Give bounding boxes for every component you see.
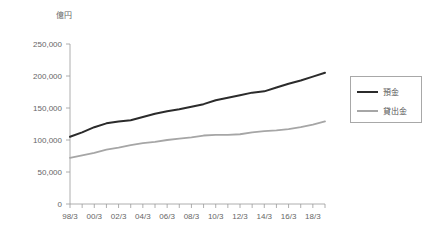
x-tick-label: 00/3 (86, 212, 102, 221)
legend-swatch-deposits (357, 91, 378, 93)
series-line-deposits (70, 73, 325, 137)
x-tick-label: 10/3 (208, 212, 224, 221)
legend-item-loans: 貸出金 (357, 105, 407, 116)
y-tick-label: 0 (58, 200, 63, 209)
series-line-loans (70, 121, 325, 157)
legend-swatch-loans (357, 110, 378, 112)
x-tick-label: 06/3 (159, 212, 175, 221)
x-tick-label: 16/3 (281, 212, 297, 221)
y-tick-label: 250,000 (33, 40, 62, 49)
chart-legend: 預金 貸出金 (350, 76, 422, 123)
x-tick-label: 12/3 (232, 212, 248, 221)
x-tick-label: 98/3 (62, 212, 78, 221)
y-tick-label: 100,000 (33, 136, 62, 145)
series-lines (70, 73, 325, 158)
y-tick-label: 150,000 (33, 104, 62, 113)
y-axis: 050,000100,000150,000200,000250,000 (33, 40, 70, 209)
y-tick-label: 50,000 (38, 168, 63, 177)
x-tick-label: 18/3 (305, 212, 321, 221)
y-tick-label: 200,000 (33, 72, 62, 81)
legend-item-deposits: 預金 (357, 86, 399, 97)
x-tick-label: 04/3 (135, 212, 151, 221)
legend-label-deposits: 預金 (383, 86, 399, 97)
x-tick-label: 14/3 (256, 212, 272, 221)
x-axis: 98/300/302/304/306/308/310/312/314/316/3… (62, 204, 325, 221)
deposits-loans-line-chart: 億円 050,000100,000150,000200,000250,000 9… (0, 0, 435, 242)
legend-label-loans: 貸出金 (383, 105, 407, 116)
x-tick-label: 08/3 (184, 212, 200, 221)
x-tick-label: 02/3 (111, 212, 127, 221)
